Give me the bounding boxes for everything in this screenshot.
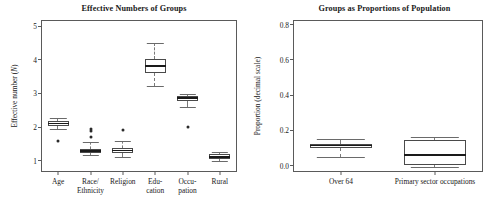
x-tick-label-line2: cation (146, 186, 164, 195)
y-tick-label: 3 (33, 89, 42, 98)
y-tick-label: 4 (33, 55, 42, 64)
x-tick-mark (219, 171, 220, 175)
boxplot (294, 21, 482, 171)
x-tick-mark (58, 171, 59, 175)
x-tick-mark (90, 171, 91, 175)
x-tick-label: Rural (212, 177, 228, 186)
panel-effective-numbers: Effective Numbers of Groups Effective nu… (0, 0, 246, 206)
y-tick-label: 0.8 (280, 20, 294, 29)
boxplot (42, 21, 236, 171)
y-axis-label-left-symbol: N (10, 67, 19, 72)
x-tick-label-line1: Age (52, 177, 64, 186)
y-tick-label: 2 (33, 123, 42, 132)
y-tick-label: 0.6 (280, 55, 294, 64)
x-tick-label: Race/Ethnicity (77, 177, 104, 195)
y-tick-label: 0.2 (280, 126, 294, 135)
box-iqr (404, 140, 466, 166)
whisker-cap-upper (411, 137, 459, 138)
median-line (209, 156, 230, 158)
whisker-cap-upper (212, 152, 228, 153)
x-tick-label-line1: Primary sector occupations (395, 177, 475, 186)
y-tick-label: 1 (33, 156, 42, 165)
x-tick-label-line2: Ethnicity (77, 186, 104, 195)
y-tick-label: 0.0 (280, 161, 294, 170)
x-tick-label-line1: Edu- (146, 177, 164, 186)
x-tick-label-line1: Religion (110, 177, 135, 186)
x-tick-label-line2: pation (178, 186, 196, 195)
x-tick-label: Occu-pation (178, 177, 196, 195)
panel-proportions: Groups as Proportions of Population Prop… (246, 0, 491, 206)
plot-area-right: 0.00.20.40.60.8Over 64Primary sector occ… (293, 20, 483, 172)
y-tick-label: 5 (33, 22, 42, 31)
median-line (404, 154, 466, 156)
y-axis-label-right: Proportion (decimal scale) (253, 57, 262, 135)
x-tick-label-line1: Over 64 (329, 177, 353, 186)
x-tick-label: Over 64 (329, 177, 353, 186)
x-tick-mark (341, 171, 342, 175)
plot-area-left: 12345AgeRace/EthnicityReligionEdu-cation… (41, 20, 237, 172)
x-tick-mark (435, 171, 436, 175)
y-tick-label: 0.4 (280, 91, 294, 100)
whisker-cap-lower (212, 161, 228, 162)
y-axis-label-left-tail: ) (10, 64, 19, 66)
x-tick-mark (122, 171, 123, 175)
x-tick-label-line1: Occu- (178, 177, 196, 186)
y-axis-label-left: Effective number (N) (10, 64, 19, 127)
x-tick-label-line1: Rural (212, 177, 228, 186)
y-axis-label-left-text: Effective number ( (10, 72, 19, 128)
chart-title-right: Groups as Proportions of Population (284, 4, 485, 14)
x-tick-label: Religion (110, 177, 135, 186)
x-tick-mark (155, 171, 156, 175)
x-tick-mark (187, 171, 188, 175)
x-tick-label-line1: Race/ (77, 177, 104, 186)
whisker-cap-lower (411, 167, 459, 168)
chart-title-left: Effective Numbers of Groups (30, 4, 238, 14)
x-tick-label: Primary sector occupations (395, 177, 475, 186)
figure-container: Effective Numbers of Groups Effective nu… (0, 0, 491, 206)
x-tick-label: Age (52, 177, 64, 186)
x-tick-label: Edu-cation (146, 177, 164, 195)
